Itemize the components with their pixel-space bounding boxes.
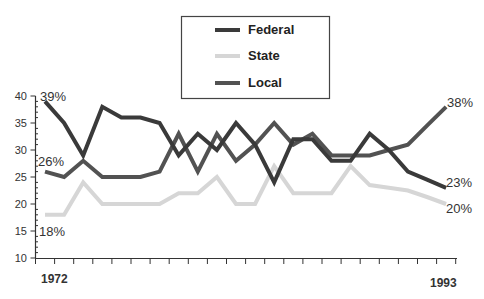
series-state-line — [45, 166, 446, 215]
y-tick-label: 40 — [15, 90, 27, 102]
legend-local-label: Local — [248, 75, 282, 90]
local-start-label: 26% — [38, 154, 64, 169]
x-start-year-label: 1972 — [41, 272, 68, 286]
local-end-label: 38% — [447, 95, 473, 110]
state-start-label: 18% — [39, 224, 65, 239]
legend-federal-label: Federal — [248, 22, 294, 37]
y-tick-label: 30 — [15, 144, 27, 156]
y-tick-label: 25 — [15, 171, 27, 183]
federal-end-label: 23% — [446, 175, 472, 190]
state-end-label: 20% — [446, 201, 472, 216]
legend-state-label: State — [248, 48, 280, 63]
x-end-year-label: 1993 — [430, 276, 457, 290]
y-tick-label: 20 — [15, 198, 27, 210]
legend: Federal State Local — [182, 17, 330, 99]
series-lines — [45, 101, 446, 214]
x-axis — [36, 258, 458, 264]
y-tick-label: 15 — [15, 225, 27, 237]
series-federal-line — [45, 101, 446, 187]
line-chart: Federal State Local 10152025303540 39% 2… — [0, 0, 484, 299]
federal-start-label: 39% — [40, 89, 66, 104]
y-axis: 10152025303540 — [15, 90, 38, 264]
series-local-line — [45, 107, 446, 177]
y-tick-label: 35 — [15, 117, 27, 129]
y-tick-label: 10 — [15, 252, 27, 264]
